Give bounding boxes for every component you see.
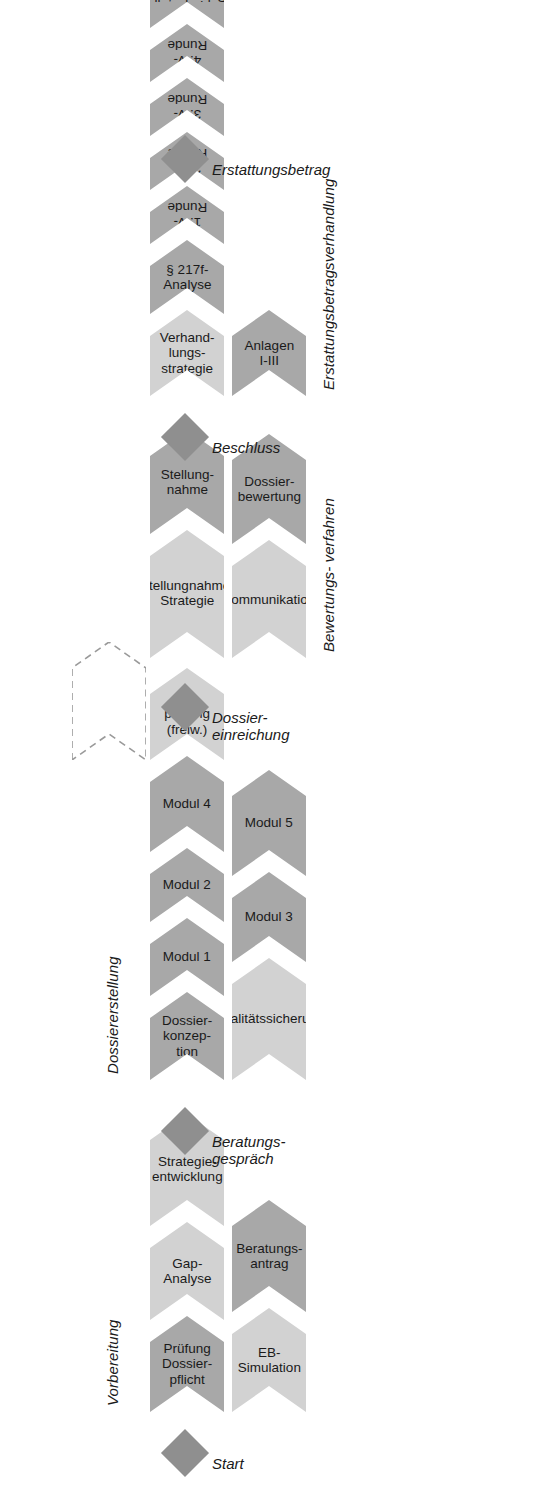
process-step[interactable]: Prüfung Dossier- pflicht	[150, 1316, 224, 1412]
process-step-label: Anlagen I-III	[238, 338, 300, 369]
phase-label-vorbereitung: Vorbereitung	[104, 1319, 121, 1406]
process-step-label: Kommunikation	[216, 591, 321, 606]
milestone-label: Dossier- einreichung	[212, 710, 290, 744]
process-step-label: Modul 1	[157, 949, 217, 964]
process-diagram: Prüfung Dossier- pflichtGap- AnalyseStra…	[0, 0, 559, 1500]
process-step-label: Modul 5	[239, 815, 299, 830]
process-step[interactable]: Beratungs- antrag	[232, 1200, 306, 1312]
process-step[interactable]: Schiedsstelle	[150, 0, 224, 28]
process-step[interactable]: Modul 2	[150, 848, 224, 922]
diagram-canvas: Prüfung Dossier- pflichtGap- AnalyseStra…	[0, 0, 559, 1500]
process-step[interactable]: Anlagen I-III	[232, 310, 306, 396]
process-step-label: 4. V-Runde	[158, 38, 216, 69]
diamond-milestone-icon	[161, 1429, 209, 1477]
process-step-label: Schiedsstelle	[141, 0, 233, 5]
phase-label-dossiererstellung: Dossiererstellung	[104, 956, 121, 1074]
process-step-label: Modul 2	[157, 877, 217, 892]
process-step-label: Gap- Analyse	[157, 1256, 217, 1287]
process-step-label: Modul 3	[239, 909, 299, 924]
process-step[interactable]: Qualitätssicherung	[232, 958, 306, 1080]
optional-step-placeholder[interactable]	[72, 642, 146, 760]
process-step-label: EB- Simulation	[231, 1345, 306, 1376]
process-step[interactable]: Stellungnahme- Strategie	[150, 530, 224, 658]
process-step[interactable]: Verhand- lungs- strategie	[150, 310, 224, 396]
process-step[interactable]: 4. V-Runde	[150, 24, 224, 82]
process-step[interactable]: Kommunikation	[232, 540, 306, 658]
process-step[interactable]: Gap- Analyse	[150, 1222, 224, 1320]
process-step-label: 3. V-Runde	[158, 92, 216, 123]
process-step-label: Beratungs- antrag	[230, 1241, 308, 1272]
process-step[interactable]: Modul 1	[150, 918, 224, 996]
phase-label-erstattungsbetragsverhandlung: Erstattungsbetragsverhandlung	[320, 179, 337, 390]
process-step-label: § 217f- Analyse	[157, 262, 217, 293]
process-step[interactable]: Modul 4	[150, 756, 224, 852]
process-step[interactable]: 3. V-Runde	[150, 78, 224, 136]
process-step[interactable]: Dossier- konzep- tion	[150, 992, 224, 1080]
process-step-label: Modul 4	[157, 796, 217, 811]
milestone-label: Erstattungsbetrag	[212, 162, 330, 179]
process-step[interactable]: Modul 3	[232, 872, 306, 962]
process-step-label: Stellung- nahme	[154, 467, 219, 498]
process-step-label: Prüfung Dossier- pflicht	[156, 1341, 218, 1387]
process-step-label: Dossier- konzep- tion	[156, 1013, 218, 1059]
process-step[interactable]: Modul 5	[232, 770, 306, 876]
process-step-label: Dossier- bewertung	[231, 474, 306, 505]
process-step-label: Qualitätssicherung	[207, 1011, 331, 1026]
process-step[interactable]: § 217f- Analyse	[150, 240, 224, 314]
process-step[interactable]: 1. V-Runde	[150, 186, 224, 244]
process-step-label: Verhand- lungs- strategie	[154, 330, 221, 376]
milestone-label: Start	[212, 1456, 244, 1473]
process-step-label: 1. V-Runde	[158, 200, 216, 231]
milestone-label: Beratungs- gespräch	[212, 1134, 285, 1168]
process-step[interactable]: EB- Simulation	[232, 1308, 306, 1412]
phase-label-bewertungsverfahren: Bewertungs- verfahren	[320, 498, 337, 652]
process-step-label: Stellungnahme- Strategie	[134, 579, 241, 610]
milestone-label: Beschluss	[212, 440, 280, 457]
